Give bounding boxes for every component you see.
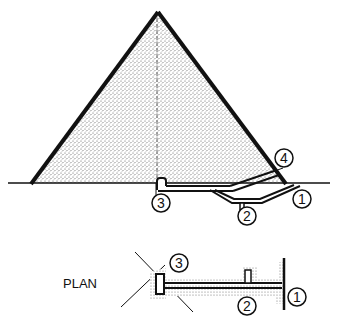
plan-callout-1: 1 bbox=[288, 288, 306, 306]
callout-2: 2 bbox=[238, 207, 256, 225]
callout-1: 1 bbox=[293, 190, 311, 208]
plan-chamber-3 bbox=[156, 274, 164, 294]
plan-callout-3: 3 bbox=[170, 254, 188, 272]
callout-4: 4 bbox=[275, 149, 293, 167]
pyramid-body bbox=[32, 12, 285, 183]
pyramid-diagram: 1 2 3 4 PLAN 3 bbox=[0, 0, 337, 319]
plan-title: PLAN bbox=[63, 276, 97, 291]
chamber-3-elevation bbox=[157, 178, 166, 190]
elevation-view: 1 2 3 4 bbox=[8, 12, 330, 225]
plan-view: PLAN 3 2 1 bbox=[63, 252, 306, 315]
svg-text:1: 1 bbox=[298, 191, 306, 207]
svg-text:3: 3 bbox=[175, 255, 183, 271]
callout-3: 3 bbox=[152, 194, 170, 212]
svg-text:3: 3 bbox=[157, 195, 165, 211]
svg-text:2: 2 bbox=[243, 298, 251, 314]
plan-callout-2: 2 bbox=[238, 297, 256, 315]
svg-text:2: 2 bbox=[243, 208, 251, 224]
svg-text:1: 1 bbox=[293, 289, 301, 305]
plan-chamber-2 bbox=[245, 270, 251, 283]
svg-text:4: 4 bbox=[280, 150, 288, 166]
